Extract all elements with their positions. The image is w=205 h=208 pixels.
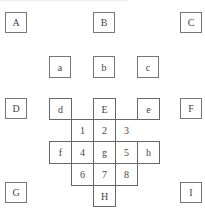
box-G: G [5, 182, 27, 203]
cut-off-caption: ………………………………………… [0, 0, 205, 4]
box-I: I [180, 182, 202, 203]
box-b: b [93, 56, 115, 78]
cell-h: h [137, 141, 160, 164]
cell-e: e [137, 98, 160, 120]
cell-d: d [49, 98, 72, 120]
cell-g: g [93, 141, 116, 164]
box-A: A [5, 12, 27, 33]
box-c: c [137, 56, 159, 78]
cell-8: 8 [115, 163, 138, 186]
cell-3: 3 [115, 119, 138, 142]
cell-6: 6 [71, 163, 94, 186]
cell-E: E [93, 98, 116, 120]
box-a: a [49, 56, 71, 78]
cell-4: 4 [71, 141, 94, 164]
cell-5: 5 [115, 141, 138, 164]
cell-f: f [49, 141, 72, 164]
cell-1: 1 [71, 119, 94, 142]
box-C: C [180, 12, 202, 33]
cell-blank [137, 119, 160, 142]
cell-2: 2 [93, 119, 116, 142]
box-D: D [5, 98, 27, 119]
box-B: B [93, 12, 115, 33]
box-F: F [180, 98, 202, 119]
cell-H: H [93, 185, 116, 207]
cell-7: 7 [93, 163, 116, 186]
